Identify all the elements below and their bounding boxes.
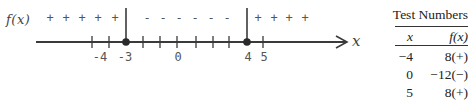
tick-label-0: 0 (174, 50, 181, 64)
header-x: x (388, 29, 413, 45)
sign-plus: + (252, 11, 264, 25)
cell-fx: −12(−) (430, 67, 468, 83)
sign-minus: - (173, 11, 185, 25)
axis-variable-label: x (352, 32, 360, 50)
cell-x: 5 (388, 85, 413, 101)
tick-label-4: 4 (244, 50, 251, 64)
sign-minus: - (157, 11, 169, 25)
sign-plus: + (299, 11, 311, 25)
sign-chart: f(x) + + + + + - (0, 0, 370, 102)
critical-point-dot-neg3 (122, 38, 130, 46)
sign-minus: - (141, 11, 153, 25)
sign-plus: + (109, 11, 121, 25)
sign-minus: - (189, 11, 201, 25)
sign-minus: - (221, 11, 233, 25)
tick-label-neg4: -4 (93, 50, 107, 64)
sign-plus: + (76, 11, 88, 25)
table-top-rule (395, 26, 468, 27)
sign-plus: + (268, 11, 280, 25)
sign-plus: + (44, 11, 56, 25)
test-numbers-table: Test Numbers x f(x) −4 8(+) 0 −12(−) 5 8… (388, 6, 468, 23)
table-title: Test Numbers (388, 6, 468, 23)
cell-fx: 8(+) (445, 49, 468, 65)
cell-fx: 8(+) (445, 85, 468, 101)
sign-plus: + (60, 11, 72, 25)
sign-plus: + (92, 11, 104, 25)
table-header-rule (395, 45, 468, 46)
tick-label-neg3: -3 (118, 50, 132, 64)
cell-x: −4 (388, 49, 413, 65)
sign-minus: - (205, 11, 217, 25)
sign-plus: + (283, 11, 295, 25)
cell-x: 0 (388, 67, 413, 83)
critical-point-dot-4 (243, 38, 251, 46)
table-header-row: x f(x) (388, 29, 468, 45)
tick-label-5: 5 (260, 50, 267, 64)
table-row: 0 −12(−) (388, 67, 468, 83)
table-row: 5 8(+) (388, 85, 468, 101)
sign-chart-figure: f(x) + + + + + - (0, 0, 469, 102)
table-row: −4 8(+) (388, 49, 468, 65)
header-fx: f(x) (449, 29, 468, 45)
